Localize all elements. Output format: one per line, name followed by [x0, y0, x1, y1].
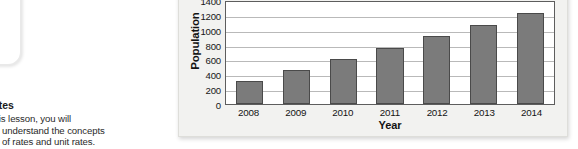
x-axis-tick-labels: 2008200920102011201220132014 — [225, 107, 555, 118]
x-tick-label: 2010 — [319, 107, 366, 118]
bar-slot — [273, 2, 320, 104]
x-tick-label: 2009 — [272, 107, 319, 118]
y-tick-label: 400 — [191, 70, 221, 81]
x-axis-title: Year — [225, 119, 555, 131]
bar-2010 — [330, 59, 357, 104]
bar-slot — [226, 2, 273, 104]
x-tick-label: 2012 — [414, 107, 461, 118]
y-tick-label: 1200 — [191, 10, 221, 21]
x-tick-label: 2013 — [461, 107, 508, 118]
objective-line-1: this lesson, you will — [0, 113, 178, 125]
callout-box — [0, 0, 22, 66]
bar-chart: Population 0200400600800100012001400 200… — [179, 0, 567, 136]
y-tick-label: 600 — [191, 55, 221, 66]
bar-slot — [320, 2, 367, 104]
objective-line-3: of rates and unit rates. — [0, 136, 178, 148]
y-tick-label: 1400 — [191, 0, 221, 7]
bar-2014 — [517, 13, 544, 104]
plot-area — [225, 1, 555, 105]
y-axis-tick-labels: 0200400600800100012001400 — [191, 1, 221, 105]
bars-container — [226, 2, 554, 104]
x-tick-label: 2011 — [366, 107, 413, 118]
bar-2008 — [236, 81, 263, 104]
bar-slot — [507, 2, 554, 104]
y-tick-label: 1000 — [191, 25, 221, 36]
bar-2012 — [423, 36, 450, 104]
bar-slot — [413, 2, 460, 104]
y-tick-label: 800 — [191, 40, 221, 51]
bar-2013 — [470, 25, 497, 104]
lesson-objective-block: ates this lesson, you will understand th… — [0, 99, 178, 148]
x-tick-label: 2014 — [508, 107, 555, 118]
objective-body: this lesson, you will understand the con… — [0, 113, 178, 148]
y-tick-label: 200 — [191, 85, 221, 96]
chart-panel: Population 0200400600800100012001400 200… — [178, 0, 568, 137]
y-tick-label: 0 — [191, 100, 221, 111]
left-page-fragment: ates this lesson, you will understand th… — [0, 0, 178, 149]
objective-heading: ates — [0, 99, 178, 111]
bar-2011 — [376, 48, 403, 104]
bar-slot — [367, 2, 414, 104]
objective-line-2: understand the concepts — [0, 125, 178, 137]
bar-2009 — [283, 70, 310, 104]
bar-slot — [460, 2, 507, 104]
x-tick-label: 2008 — [225, 107, 272, 118]
